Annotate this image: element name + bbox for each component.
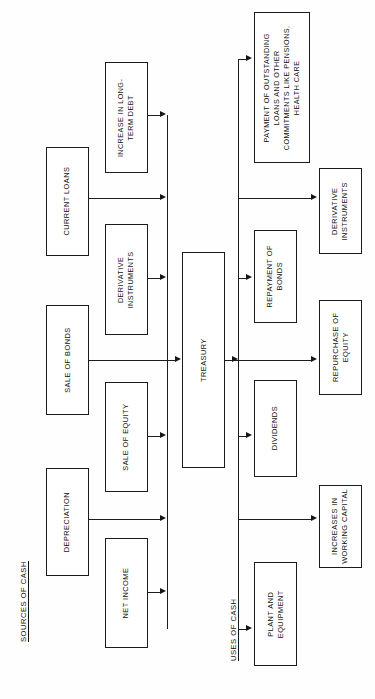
node-payment-of-outstanding-loans: PAYMENT OF OUTSTANDINGLOANS AND OTHERCOM… (254, 12, 310, 163)
node-depreciation-label: DEPRECIATION (62, 492, 72, 552)
arrowhead-repayment-of-bonds (246, 274, 252, 280)
caption-sources-of-cash: SOURCES OF CASH (19, 561, 28, 642)
node-current-loans: CURRENT LOANS (46, 147, 89, 256)
arrowhead-sale-of-equity (160, 432, 166, 438)
node-repurchase-of-equity-label: REPURCHASE OFEQUITY (330, 313, 350, 383)
arrowhead-increase-long-term-debt (160, 111, 166, 117)
arrowhead-plant-and-equipment (246, 625, 252, 631)
arrowhead-net-income (160, 588, 166, 594)
node-sale-of-bonds: SALE OF BONDS (46, 305, 89, 415)
node-depreciation: DEPRECIATION (46, 468, 89, 576)
node-net-income: NET INCOME (105, 538, 148, 648)
node-dividends: DIVIDENDS (254, 380, 297, 477)
node-derivative-instruments-use: DERIVATIVEINSTRUMENTS (319, 168, 362, 254)
node-increase-in-long-term-debt: INCREASE IN LONG-TERM DEBT (105, 62, 148, 173)
diagram-canvas: SOURCES OF CASH USES OF CASH CURRENT LOA… (0, 0, 375, 699)
arrowhead-repurchase-of-equity (311, 356, 317, 362)
arrowhead-current-loans (160, 194, 166, 200)
node-derivative-instruments-source: DERIVATIVEINSTRUMENTS (105, 224, 148, 335)
node-derivative-instruments-source-label: DERIVATIVEINSTRUMENTS (117, 251, 137, 308)
node-payment-of-outstanding-loans-label: PAYMENT OF OUTSTANDINGLOANS AND OTHERCOM… (262, 25, 302, 150)
node-dividends-label: DIVIDENDS (270, 406, 280, 450)
node-repurchase-of-equity: REPURCHASE OFEQUITY (319, 300, 362, 395)
arrowhead-depreciation (160, 515, 166, 521)
node-plant-and-equipment-label: PLANT ANDEQUIPMENT (265, 590, 285, 638)
node-increase-in-long-term-debt-label: INCREASE IN LONG-TERM DEBT (117, 78, 137, 156)
node-sale-of-bonds-label: SALE OF BONDS (62, 327, 72, 392)
node-treasury-label: TREASURY (198, 338, 208, 382)
connector-current-loans (89, 198, 161, 199)
arrowhead-payment-of-outstanding-loans (246, 55, 252, 61)
arrowhead-dividends (246, 432, 252, 438)
connector-derivative-instruments-use (238, 198, 313, 199)
connector-increases-in-working-capital (238, 519, 313, 520)
connector-sale-of-bonds (89, 360, 177, 361)
arrowhead-sale-of-bonds-into-treasury (175, 356, 181, 362)
node-increases-in-working-capital-label: INCREASES INWORKING CAPITAL (330, 489, 350, 564)
node-repayment-of-bonds-label: REPAYMENT OFBONDS (265, 245, 285, 307)
node-derivative-instruments-use-label: DERIVATIVEINSTRUMENTS (330, 182, 350, 240)
connector-uses-bus (238, 59, 239, 629)
arrowhead-derivative-instruments-source (160, 274, 166, 280)
node-treasury: TREASURY (182, 252, 225, 468)
node-current-loans-label: CURRENT LOANS (62, 167, 72, 236)
arrowhead-derivative-instruments-use (311, 194, 317, 200)
caption-uses-of-cash: USES OF CASH (229, 598, 238, 661)
node-plant-and-equipment: PLANT ANDEQUIPMENT (254, 562, 297, 666)
node-sale-of-equity: SALE OF EQUITY (105, 382, 148, 492)
node-net-income-label: NET INCOME (121, 568, 131, 619)
node-sale-of-equity-label: SALE OF EQUITY (121, 403, 131, 470)
arrowhead-increases-in-working-capital (311, 515, 317, 521)
connector-sources-bus (167, 115, 168, 629)
connector-repurchase-of-equity (238, 360, 313, 361)
node-repayment-of-bonds: REPAYMENT OFBONDS (254, 230, 297, 323)
connector-depreciation (89, 519, 161, 520)
node-increases-in-working-capital: INCREASES INWORKING CAPITAL (319, 485, 362, 568)
